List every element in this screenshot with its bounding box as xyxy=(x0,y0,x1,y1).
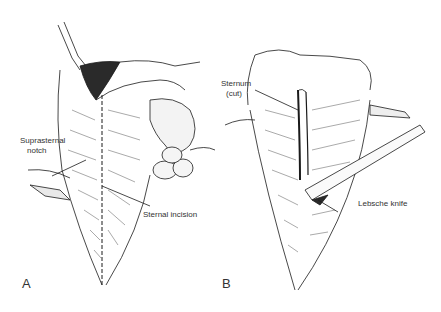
panel-letter-a: A xyxy=(22,276,31,291)
panel-a-illustration xyxy=(0,0,230,312)
sternal-incision-drawing xyxy=(0,0,230,312)
label-sternal-incision: Sternal incision xyxy=(143,210,197,219)
label-lebsche-knife: Lebsche knife xyxy=(358,199,407,208)
label-suprasternal-notch-line2: notch xyxy=(27,146,47,155)
label-sternum-cut: (cut) xyxy=(226,89,242,98)
panel-letter-b: B xyxy=(222,276,231,291)
label-suprasternal-line1: Suprasternal xyxy=(20,136,65,145)
panel-b-illustration xyxy=(220,0,441,312)
label-suprasternal-notch: Suprasternal xyxy=(20,136,65,145)
label-sternum: Sternum xyxy=(221,79,251,88)
sternum-cut-drawing xyxy=(220,0,441,312)
